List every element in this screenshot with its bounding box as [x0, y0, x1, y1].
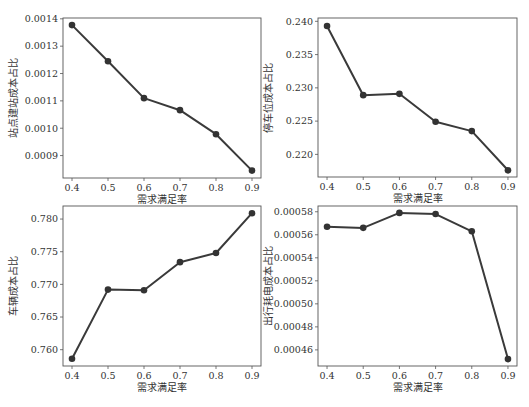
x-tick-label: 0.5 [356, 370, 371, 381]
y-tick-label: 0.240 [286, 16, 313, 27]
y-tick-label: 0.00056 [274, 229, 313, 240]
data-point [396, 210, 403, 217]
data-point [69, 356, 76, 363]
data-point [141, 287, 148, 294]
y-tick-label: 0.00046 [274, 344, 313, 355]
x-tick-label: 0.9 [244, 182, 259, 193]
data-point [69, 22, 76, 29]
x-tick-label: 0.4 [64, 182, 79, 193]
data-point [249, 167, 256, 174]
x-tick-label: 0.7 [172, 370, 187, 381]
data-point [505, 167, 512, 174]
data-line [327, 213, 508, 359]
x-tick-label: 0.4 [319, 181, 334, 192]
x-tick-label: 0.5 [356, 181, 371, 192]
data-point [324, 223, 331, 230]
x-tick-label: 0.5 [100, 182, 115, 193]
y-tick-label: 0.0011 [25, 95, 58, 106]
y-tick-label: 0.225 [286, 115, 313, 126]
data-point [105, 58, 112, 65]
data-point [432, 211, 439, 218]
x-tick-label: 0.9 [500, 181, 515, 192]
y-tick-label: 0.765 [31, 311, 58, 322]
y-tick-label: 0.760 [31, 344, 58, 355]
y-tick-label: 0.00050 [274, 298, 313, 309]
data-point [360, 225, 367, 232]
y-tick-label: 0.00048 [274, 321, 313, 332]
chart-parking-space: 0.40.50.60.70.80.90.2200.2250.2300.2350.… [262, 16, 517, 204]
y-tick-label: 0.0010 [25, 123, 58, 134]
x-tick-label: 0.9 [244, 370, 259, 381]
y-axis-label: 站点建站成本占比 [7, 58, 19, 138]
y-tick-label: 0.235 [286, 49, 313, 60]
data-point [105, 286, 112, 293]
x-tick-label: 0.4 [319, 370, 334, 381]
chart-station-construction: 0.40.50.60.70.80.90.00090.00100.00110.00… [7, 13, 261, 205]
x-tick-label: 0.4 [64, 370, 79, 381]
y-tick-label: 0.230 [286, 82, 313, 93]
data-point [177, 107, 184, 114]
y-tick-label: 0.775 [31, 246, 58, 257]
data-point [505, 356, 512, 363]
data-point [396, 91, 403, 98]
x-axis-label: 需求满足率 [393, 381, 443, 393]
x-tick-label: 0.7 [172, 182, 187, 193]
plot-frame [63, 206, 261, 366]
x-axis-label: 需求满足率 [393, 192, 443, 204]
data-point [249, 210, 256, 217]
data-point [360, 92, 367, 99]
y-tick-label: 0.770 [31, 279, 58, 290]
x-tick-label: 0.6 [136, 370, 151, 381]
data-point [432, 118, 439, 125]
x-tick-label: 0.8 [208, 182, 223, 193]
data-line [72, 213, 252, 359]
figure: 0.40.50.60.70.80.90.00090.00100.00110.00… [0, 0, 529, 407]
plot-frame [63, 18, 261, 178]
plot-frame [318, 18, 517, 177]
y-axis-label: 出行耗电成本占比 [262, 246, 274, 326]
y-tick-label: 0.00058 [274, 206, 313, 217]
y-tick-label: 0.220 [286, 149, 313, 160]
x-tick-label: 0.7 [428, 181, 443, 192]
data-point [213, 250, 220, 257]
x-tick-label: 0.8 [208, 370, 223, 381]
data-point [141, 95, 148, 102]
x-tick-label: 0.8 [464, 181, 479, 192]
y-tick-label: 0.00052 [274, 275, 313, 286]
x-tick-label: 0.8 [464, 370, 479, 381]
data-point [177, 259, 184, 266]
x-axis-label: 需求满足率 [137, 193, 187, 205]
data-point [468, 128, 475, 135]
y-tick-label: 0.0014 [25, 13, 58, 24]
y-axis-label: 停车位成本占比 [262, 63, 274, 133]
y-tick-label: 0.00054 [274, 252, 313, 263]
x-tick-label: 0.5 [100, 370, 115, 381]
y-tick-label: 0.780 [31, 213, 58, 224]
data-point [213, 131, 220, 138]
data-line [327, 26, 508, 170]
data-point [324, 23, 331, 30]
y-tick-label: 0.0012 [25, 68, 58, 79]
y-tick-label: 0.0009 [25, 150, 58, 161]
x-tick-label: 0.6 [136, 182, 151, 193]
x-tick-label: 0.6 [392, 181, 407, 192]
x-tick-label: 0.9 [500, 370, 515, 381]
chart-travel-electricity: 0.40.50.60.70.80.90.000460.000480.000500… [262, 206, 517, 393]
x-tick-label: 0.6 [392, 370, 407, 381]
data-point [468, 228, 475, 235]
x-axis-label: 需求满足率 [137, 381, 187, 393]
y-axis-label: 车辆成本占比 [7, 256, 19, 316]
y-tick-label: 0.0013 [25, 40, 58, 51]
chart-vehicle: 0.40.50.60.70.80.90.7600.7650.7700.7750.… [7, 206, 261, 393]
x-tick-label: 0.7 [428, 370, 443, 381]
data-line [72, 25, 252, 171]
